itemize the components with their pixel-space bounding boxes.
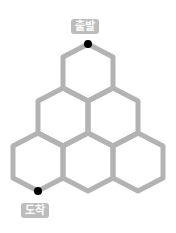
start-point — [84, 40, 92, 48]
start-label: 출발 — [71, 19, 99, 34]
hexagon — [63, 133, 113, 191]
hexagon-grid — [0, 0, 176, 233]
end-point — [34, 187, 42, 195]
end-label: 도착 — [21, 203, 49, 218]
hexagon — [13, 133, 63, 191]
hexagon — [113, 133, 163, 191]
